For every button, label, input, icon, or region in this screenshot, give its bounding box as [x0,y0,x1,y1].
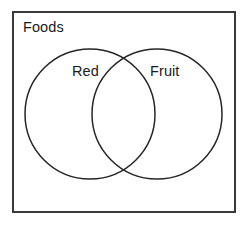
set-label-right: Fruit [150,64,180,79]
set-label-left: Red [72,64,99,79]
venn-circles-svg [0,0,247,228]
venn-diagram-canvas: Foods Red Fruit [0,0,247,228]
